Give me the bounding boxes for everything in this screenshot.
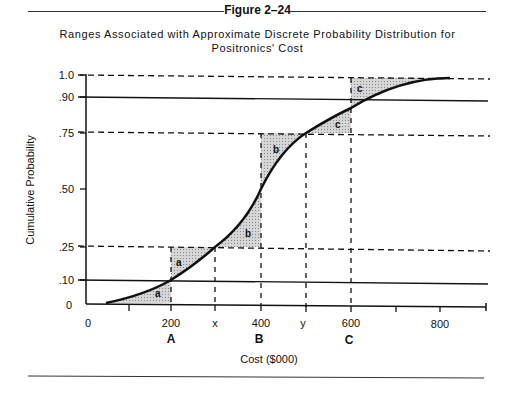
svg-text:b: b: [273, 144, 279, 155]
svg-text:b: b: [245, 228, 251, 239]
svg-text:x: x: [212, 317, 218, 329]
svg-text:1.0: 1.0: [59, 69, 74, 81]
svg-text:.90: .90: [59, 91, 74, 103]
svg-text:B: B: [255, 332, 264, 346]
svg-text:600: 600: [342, 317, 360, 329]
x-axis: [86, 304, 486, 307]
range-labels: A B C: [167, 332, 354, 347]
svg-text:0: 0: [66, 299, 72, 311]
shaded-regions: [106, 78, 450, 303]
bottom-rule: [28, 376, 484, 378]
svg-text:.25: .25: [59, 241, 74, 253]
svg-text:400: 400: [252, 317, 270, 329]
ref-line-0.90: [78, 97, 488, 101]
x-axis-label: Cost ($000): [240, 353, 297, 365]
ref-line-0.25: [78, 246, 490, 251]
svg-text:C: C: [345, 333, 354, 347]
svg-text:c: c: [335, 119, 341, 130]
x-tick-labels: 0 200 x 400 y 600 800: [85, 317, 449, 330]
y-axis-label: Cumulative Probability: [24, 135, 36, 245]
svg-text:c: c: [357, 83, 363, 94]
svg-text:800: 800: [431, 318, 449, 330]
svg-text:a: a: [176, 257, 182, 268]
svg-text:200: 200: [162, 317, 180, 329]
svg-text:0: 0: [85, 317, 91, 329]
svg-text:.50: .50: [59, 183, 74, 195]
ref-line-0.10: [78, 280, 488, 284]
svg-text:.10: .10: [59, 274, 74, 286]
y-tick-labels: 1.0 .90 .75 .50 .25 .10 0: [59, 69, 74, 311]
svg-text:a: a: [155, 288, 161, 299]
cumulative-curve: [106, 78, 450, 303]
svg-text:.75: .75: [59, 127, 74, 139]
svg-text:A: A: [167, 332, 176, 346]
svg-text:y: y: [300, 317, 306, 329]
chart-plot: a a b b c c 1.0 .90 .75 .50 .25 .10 0 0 …: [0, 0, 515, 393]
